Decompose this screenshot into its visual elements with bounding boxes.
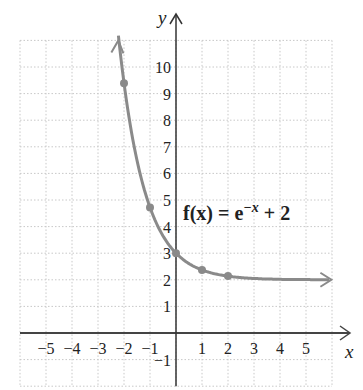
x-axis-label: x (344, 341, 354, 362)
svg-text:6: 6 (163, 165, 171, 182)
svg-text:−5: −5 (37, 340, 54, 357)
svg-text:4: 4 (276, 340, 284, 357)
svg-text:4: 4 (163, 219, 171, 236)
svg-text:5: 5 (163, 192, 171, 209)
svg-text:−2: −2 (115, 340, 132, 357)
svg-text:8: 8 (163, 112, 171, 129)
svg-text:7: 7 (163, 139, 171, 156)
function-label: f(x) = e−x + 2 (183, 200, 290, 225)
svg-text:1: 1 (198, 340, 206, 357)
curve (111, 36, 331, 287)
svg-text:−1: −1 (154, 352, 171, 369)
svg-text:9: 9 (163, 86, 171, 103)
svg-text:−4: −4 (63, 340, 80, 357)
svg-text:−3: −3 (89, 340, 106, 357)
svg-text:3: 3 (250, 340, 258, 357)
svg-text:10: 10 (155, 59, 171, 76)
svg-text:1: 1 (163, 298, 171, 315)
function-graph: −5−4−3−2−112345−112345678910 x y f(x) = … (0, 0, 363, 390)
svg-text:2: 2 (224, 340, 232, 357)
y-axis-label: y (156, 7, 167, 28)
svg-text:2: 2 (163, 272, 171, 289)
svg-text:5: 5 (302, 340, 310, 357)
